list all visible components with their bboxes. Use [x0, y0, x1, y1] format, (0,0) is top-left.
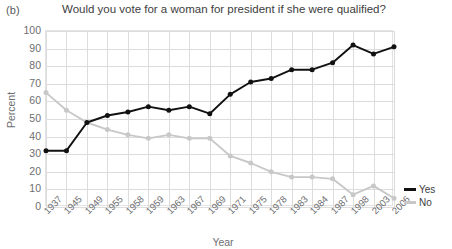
legend-label: No: [419, 197, 432, 208]
x-tick-label: 1959: [144, 194, 165, 215]
legend-swatch-icon: [404, 201, 416, 204]
x-tick-label: 1969: [206, 194, 227, 215]
x-tick-label: 1967: [185, 194, 206, 215]
x-tick-label: 1955: [103, 194, 124, 215]
x-axis: 1937194519491955195819591963196719691971…: [0, 0, 452, 249]
chart-legend: YesNo: [404, 183, 435, 209]
legend-label: Yes: [419, 184, 435, 195]
x-tick-label: 1987: [329, 194, 350, 215]
x-tick-label: 1984: [308, 194, 329, 215]
x-tick-label: 2003: [370, 194, 391, 215]
x-tick-label: 1978: [267, 194, 288, 215]
legend-item-yes: Yes: [404, 183, 435, 196]
legend-item-no: No: [404, 196, 435, 209]
x-tick-label: 1975: [247, 194, 268, 215]
x-axis-title: Year: [183, 236, 263, 248]
x-tick-label: 1945: [62, 194, 83, 215]
x-tick-label: 1971: [226, 194, 247, 215]
x-tick-label: 1937: [42, 194, 63, 215]
x-tick-label: 1963: [165, 194, 186, 215]
x-tick-label: 1998: [349, 194, 370, 215]
legend-swatch-icon: [404, 188, 416, 191]
x-tick-label: 1958: [124, 194, 145, 215]
x-tick-label: 1983: [288, 194, 309, 215]
x-tick-label: 1949: [83, 194, 104, 215]
